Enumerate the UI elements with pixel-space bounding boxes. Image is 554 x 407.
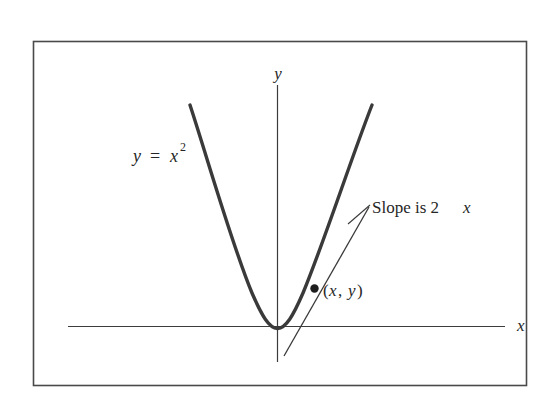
curve-equation-equals: = [150, 146, 160, 166]
point-label-comma: , [338, 281, 342, 300]
curve-equation-exponent: 2 [180, 140, 186, 154]
slope-annotation-text: Slope is 2 [372, 198, 439, 217]
y-axis-label: y [272, 64, 282, 83]
curve-equation-lhs: y [131, 146, 141, 166]
point-label-x: x [328, 281, 337, 300]
parabola-tangent-figure: y x y = x 2 Slope is 2 x ( x , y ) [0, 0, 554, 407]
curve-equation-variable: x [169, 146, 178, 166]
tangent-point-marker [310, 284, 318, 292]
figure-border [34, 42, 527, 386]
x-axis-label: x [516, 316, 525, 335]
point-label-y: y [346, 281, 356, 300]
slope-annotation-variable: x [462, 198, 471, 217]
figure-container: y x y = x 2 Slope is 2 x ( x , y ) [0, 0, 554, 407]
point-label-close-paren: ) [357, 281, 363, 300]
